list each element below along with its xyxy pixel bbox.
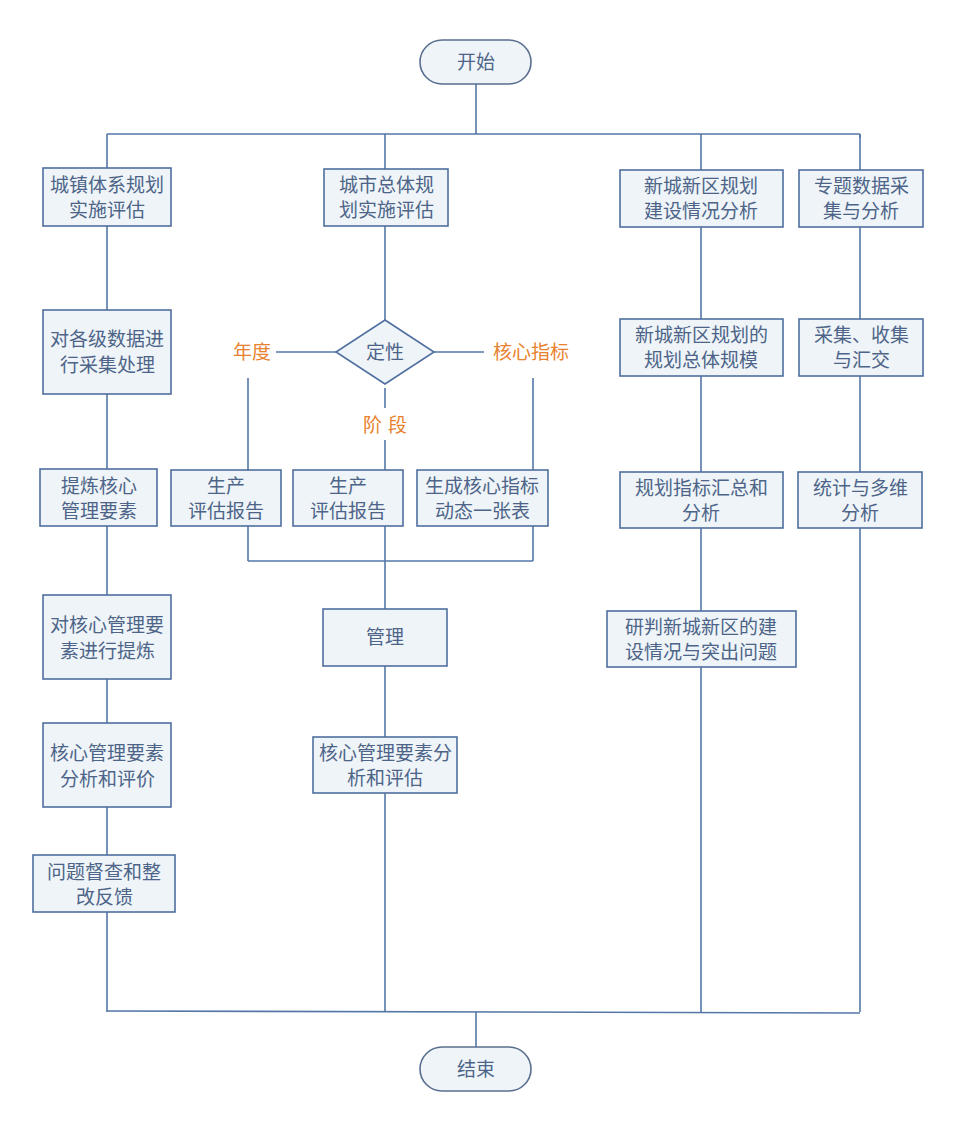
process-node: 提炼核心 管理要素 (40, 469, 157, 526)
node-line: 规划指标汇总和 (635, 477, 768, 499)
node-line: 专题数据采 (814, 175, 909, 197)
process-node: 核心管理要素分 析和评估 (313, 737, 457, 793)
output-node: 生成核心指标 动态一张表 (417, 470, 548, 526)
process-node: 新城新区规划的 规划总体规模 (620, 319, 783, 376)
node-line: 生成核心指标 (425, 475, 539, 497)
node-line: 对核心管理要 (50, 614, 164, 636)
node-line: 核心管理要素分 (319, 742, 452, 764)
node-line: 新城新区规划的 (635, 324, 768, 346)
node-line: 素进行提炼 (60, 640, 155, 662)
decision-label: 定性 (366, 341, 404, 363)
column-2: 城市总体规 划实施评估 定性 年度 阶 段 核心指标 生产 评估报告 生产 评估… (171, 169, 569, 793)
node-line: 新城新区规划 (644, 175, 758, 197)
process-node: 核心管理要素 分析和评价 (43, 723, 171, 807)
process-node: 采集、收集 与汇交 (799, 319, 923, 376)
start-node: 开始 (420, 40, 531, 84)
node-line: 分析 (682, 502, 720, 524)
node-line: 评估报告 (310, 500, 386, 522)
process-node: 新城新区规划 建设情况分析 (620, 170, 783, 227)
node-line: 划实施评估 (339, 199, 434, 221)
flowchart: 开始 结束 城镇体系规划 实施评估 对各级数据进 行采集处理 提炼核心 管理要素… (0, 0, 956, 1125)
node-line: 管理 (366, 626, 404, 648)
process-node: 规划指标汇总和 分析 (620, 472, 783, 528)
end-node: 结束 (420, 1047, 531, 1091)
node-line: 对各级数据进 (50, 328, 164, 350)
node-line: 管理要素 (61, 500, 137, 522)
node-line: 分析 (841, 502, 879, 524)
end-label: 结束 (457, 1058, 495, 1080)
node-line: 生产 (329, 475, 367, 497)
node-line: 集与分析 (823, 200, 899, 222)
node-line: 析和评估 (347, 767, 423, 789)
column-4: 专题数据采 集与分析 采集、收集 与汇交 统计与多维 分析 (798, 170, 923, 528)
start-label: 开始 (457, 51, 495, 73)
node-line: 采集、收集 (814, 324, 909, 346)
output-node: 生产 评估报告 (171, 470, 281, 526)
node-line: 城镇体系规划 (50, 174, 164, 196)
process-node: 研判新城新区的建 设情况与突出问题 (607, 611, 796, 667)
branch-label-down: 阶 段 (363, 414, 407, 436)
branch-label-left: 年度 (233, 341, 271, 363)
node-line: 实施评估 (69, 199, 145, 221)
process-node: 城市总体规 划实施评估 (324, 169, 448, 226)
process-node: 城镇体系规划 实施评估 (43, 168, 171, 226)
node-line: 研判新城新区的建 (625, 616, 777, 638)
node-line: 规划总体规模 (644, 349, 758, 371)
node-line: 建设情况分析 (644, 200, 758, 222)
process-node: 统计与多维 分析 (798, 472, 922, 528)
node-line: 行采集处理 (60, 354, 155, 376)
process-node: 专题数据采 集与分析 (799, 170, 923, 227)
process-node: 对各级数据进 行采集处理 (43, 310, 171, 394)
process-node: 对核心管理要 素进行提炼 (43, 595, 171, 679)
node-line: 与汇交 (833, 349, 890, 371)
node-line: 核心管理要素 (50, 742, 164, 764)
column-1: 城镇体系规划 实施评估 对各级数据进 行采集处理 提炼核心 管理要素 对核心管理… (33, 168, 175, 912)
process-node: 问题督查和整 改反馈 (33, 855, 175, 912)
node-line: 动态一张表 (435, 500, 530, 522)
node-line: 问题督查和整 (47, 861, 161, 883)
node-line: 统计与多维 (813, 477, 908, 499)
node-line: 评估报告 (188, 500, 264, 522)
node-line: 改反馈 (76, 886, 133, 908)
node-line: 城市总体规 (339, 174, 434, 196)
decision-node: 定性 (336, 320, 434, 384)
branch-label-right: 核心指标 (493, 341, 569, 363)
output-node: 生产 评估报告 (293, 470, 403, 526)
process-node: 管理 (323, 609, 447, 666)
node-line: 生产 (207, 475, 245, 497)
node-line: 设情况与突出问题 (625, 641, 777, 663)
node-line: 分析和评价 (60, 768, 155, 790)
node-line: 提炼核心 (61, 475, 137, 497)
edge-bottom-bus (107, 1011, 860, 1013)
